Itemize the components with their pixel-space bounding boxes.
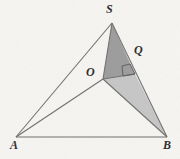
- segment-AS: [16, 23, 112, 137]
- geometry-figure: A B S O Q: [0, 0, 180, 159]
- vertex-label-S: S: [106, 3, 113, 15]
- segment-AO: [16, 79, 103, 137]
- triangle-OQB-fill: [103, 74, 167, 137]
- geometry-canvas: [0, 0, 180, 159]
- vertex-label-Q: Q: [134, 44, 143, 56]
- vertex-label-O: O: [86, 66, 95, 78]
- vertex-label-A: A: [10, 139, 18, 151]
- vertex-label-B: B: [163, 139, 171, 151]
